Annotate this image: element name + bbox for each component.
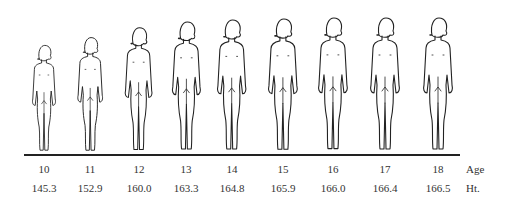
figure-age-14 [212,17,251,159]
age-label: 14 [212,163,252,175]
height-label: 166.4 [365,182,405,194]
figure-age-13 [167,19,206,159]
height-label: 145.3 [24,182,64,194]
height-label: 160.0 [119,182,159,194]
age-label: 11 [70,163,110,175]
figure-age-18 [418,15,458,159]
age-label: 10 [24,163,64,175]
height-label: 164.8 [212,182,252,194]
growth-diagram: 101112131415161718 145.3152.9160.0163.31… [0,0,507,201]
age-label: 13 [166,163,206,175]
age-label: 15 [263,163,303,175]
ground-line [24,154,460,156]
figure-age-12 [120,25,157,159]
height-label: 163.3 [166,182,206,194]
age-label: 12 [119,163,159,175]
age-row-label: Age [466,163,484,175]
figure-age-15 [263,16,303,159]
age-label: 18 [418,163,458,175]
height-label: 166.5 [418,182,458,194]
figure-age-10 [28,43,60,159]
figure-age-17 [365,15,405,159]
figure-age-11 [73,35,107,159]
height-label: 165.9 [263,182,303,194]
height-label: 152.9 [70,182,110,194]
height-row-label: Ht. [466,182,480,194]
height-label: 166.0 [313,182,353,194]
age-label: 16 [313,163,353,175]
age-label: 17 [365,163,405,175]
figure-age-16 [313,15,353,159]
